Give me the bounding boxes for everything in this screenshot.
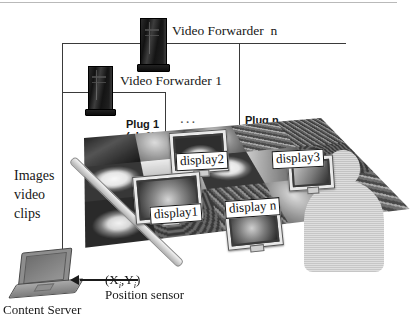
display-stand	[307, 186, 320, 194]
display-3-tag[interactable]: display3	[272, 149, 325, 170]
tower-base	[85, 109, 116, 117]
display-1-tag[interactable]: display1	[149, 203, 202, 225]
person-torso	[304, 180, 384, 272]
position-feed-arrowhead	[70, 275, 79, 285]
coord-close: )	[136, 272, 140, 287]
label-content-server: Content Server	[3, 303, 81, 318]
scan-border-line	[0, 2, 397, 3]
tower-slot	[145, 35, 160, 36]
label-images-line-3: clips	[14, 206, 40, 222]
display-2-tag[interactable]: display2	[176, 151, 229, 172]
coord-open: (X	[105, 272, 119, 287]
tower-slot	[145, 29, 160, 30]
device-content-server-laptop	[14, 250, 78, 296]
tower-body	[140, 18, 167, 66]
tower-body	[88, 66, 113, 111]
label-images-line-1: Images	[14, 168, 54, 184]
display-n-tag[interactable]: display n	[224, 197, 280, 219]
wire-bus-second	[62, 92, 165, 93]
label-video-forwarder-1: Video Forwarder 1	[120, 73, 222, 88]
label-ellipsis: ...	[180, 110, 197, 127]
tower-slot	[92, 76, 105, 77]
label-video-forwarder-n: Video Forwarder n	[172, 23, 277, 38]
label-position-sensor: Position sensor	[105, 288, 184, 303]
label-plug-1: Plug 1	[126, 118, 159, 130]
device-video-forwarder-1	[88, 66, 111, 116]
tower-base	[137, 64, 170, 72]
label-images-line-2: video	[14, 187, 45, 203]
wire-trunk-left	[62, 43, 63, 282]
device-video-forwarder-n	[140, 18, 165, 72]
wire-bus-top	[62, 43, 346, 44]
tower-glint	[149, 22, 150, 55]
tower-glint	[96, 70, 97, 100]
tower-slot	[92, 82, 105, 83]
coord-mid: ,Y	[121, 272, 134, 287]
